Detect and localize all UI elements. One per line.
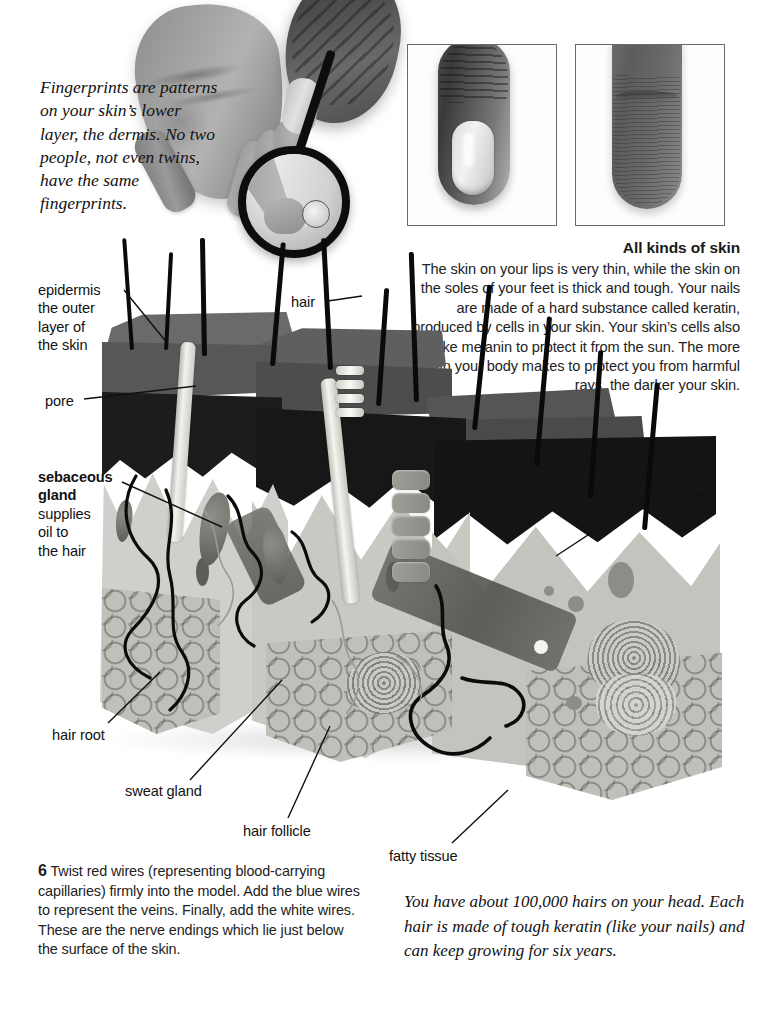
follicle-segment (392, 539, 430, 559)
magnifier-lens-content (246, 154, 342, 250)
follicle-segment (392, 516, 430, 536)
magnifier-lens (238, 146, 350, 258)
magnified-fingertip (264, 198, 306, 234)
label-epidermis-desc-3: the skin (38, 336, 134, 354)
label-hair-root: hair root (52, 726, 105, 744)
muscle-whorl-right-lower (596, 674, 676, 736)
follicle-segment (392, 493, 430, 513)
tissue-spot-4 (566, 696, 582, 710)
tissue-spot-2 (568, 596, 584, 612)
fingernail-highlight (463, 133, 474, 167)
step-number: 6 (38, 862, 47, 879)
fatty-tissue-left (102, 588, 220, 734)
label-epidermis: epidermis the outer layer of the skin (38, 281, 134, 355)
follicle-segment (392, 562, 430, 582)
label-sebaceous-desc-3: the hair (38, 542, 142, 560)
label-pore: pore (45, 392, 74, 410)
label-sweat-gland: sweat gland (125, 782, 202, 800)
skin-cross-section-model (96, 300, 716, 860)
sweat-gland-coil (336, 366, 364, 422)
coil-segment (336, 366, 364, 375)
label-epidermis-desc-1: the outer (38, 299, 134, 317)
label-sebaceous-desc-1: supplies (38, 505, 142, 523)
label-hair-follicle: hair follicle (243, 822, 311, 840)
label-sebaceous-title-1: sebaceous (38, 468, 142, 486)
tissue-spot-white (534, 640, 548, 654)
label-sebaceous-desc-2: oil to (38, 523, 142, 541)
step-text: Twist red wires (representing blood-carr… (38, 863, 360, 957)
label-epidermis-desc-2: layer of (38, 318, 134, 336)
coil-segment (336, 380, 364, 389)
coil-segment (336, 408, 364, 417)
photo-fingertip-with-nail (407, 44, 557, 226)
step-instruction-block: 6 Twist red wires (representing blood-ca… (38, 860, 360, 960)
hair-wire (200, 238, 207, 356)
fingertip-crease (616, 91, 678, 101)
label-sebaceous-gland: sebaceous gland supplies oil to the hair (38, 468, 142, 560)
hair-fact-caption: You have about 100,000 hairs on your hea… (404, 890, 752, 964)
fingertip-skin-creases (440, 44, 508, 103)
hair-follicle-chain (392, 470, 432, 590)
tissue-spot-1 (608, 562, 634, 598)
fingerprint-caption: Fingerprints are patterns on your skin’s… (40, 76, 220, 216)
magnified-nail (302, 200, 330, 228)
page-root: Fingerprints are patterns on your skin’s… (0, 0, 774, 1016)
tissue-spot-3 (544, 586, 554, 596)
label-fatty-tissue: fatty tissue (389, 847, 458, 865)
label-epidermis-title: epidermis (38, 281, 134, 299)
label-muscle: muscle (660, 486, 706, 504)
label-sebaceous-title-2: gland (38, 486, 142, 504)
follicle-segment (392, 470, 430, 490)
all-kinds-of-skin-heading: All kinds of skin (400, 238, 740, 259)
photo-fingertip-pad (575, 44, 725, 226)
label-hair: hair (291, 293, 315, 311)
coil-segment (336, 394, 364, 403)
